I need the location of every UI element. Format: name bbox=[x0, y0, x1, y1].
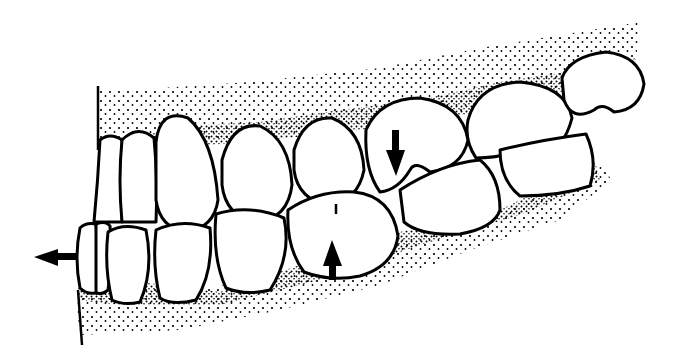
lower-second-premolar bbox=[215, 210, 286, 293]
lower-first-premolar bbox=[155, 223, 211, 302]
lower-first-molar bbox=[288, 192, 398, 278]
dental-arch-drawing bbox=[0, 0, 678, 358]
upper-third-molar bbox=[562, 52, 644, 114]
upper-lateral-incisor bbox=[120, 131, 157, 222]
dental-illustration bbox=[0, 0, 678, 358]
lower-second-molar bbox=[400, 160, 500, 234]
upper-first-premolar bbox=[222, 126, 292, 222]
left-arrow-icon bbox=[34, 249, 76, 266]
lower-canine bbox=[107, 226, 149, 303]
